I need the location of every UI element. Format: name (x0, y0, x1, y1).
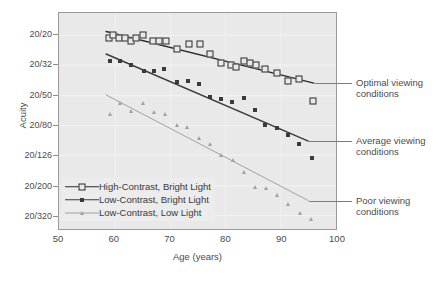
data-point-series-1 (207, 51, 214, 58)
annotation-line-1: Average viewing (356, 135, 446, 146)
data-point-series-1 (252, 62, 259, 69)
data-point-series-2 (175, 80, 179, 84)
data-point-series-1 (196, 41, 203, 48)
annotation-leader-line-3 (309, 201, 352, 202)
x-axis-tick-labels: 5060708090100 (58, 233, 337, 247)
data-point-series-1 (217, 60, 224, 67)
data-point-series-1 (284, 77, 291, 84)
data-point-series-3 (253, 185, 257, 189)
legend-marker-filled-square-icon (65, 193, 99, 206)
data-point-series-3 (185, 125, 189, 129)
data-point-series-2 (118, 59, 122, 63)
annotation-1: Optimal viewingconditions (356, 77, 446, 99)
data-point-series-2 (219, 97, 223, 101)
data-point-series-3 (129, 109, 133, 113)
x-axis-title: Age (years) (58, 251, 337, 262)
data-point-series-3 (163, 112, 167, 116)
annotation-line-2: conditions (356, 146, 446, 157)
legend-item-label: Low-Contrast, Low Light (99, 206, 201, 219)
data-point-series-1 (174, 46, 181, 53)
data-point-series-2 (297, 142, 301, 146)
data-point-series-3 (231, 158, 235, 162)
data-point-series-3 (141, 101, 145, 105)
data-point-series-3 (219, 153, 223, 157)
data-point-series-2 (275, 126, 279, 130)
data-point-series-1 (309, 97, 316, 104)
data-point-series-2 (162, 67, 166, 71)
legend-marker-open-square-icon (65, 180, 99, 193)
data-point-series-2 (186, 79, 190, 83)
data-point-series-3 (108, 112, 112, 116)
data-point-series-2 (230, 100, 234, 104)
annotation-2: Average viewingconditions (356, 135, 446, 157)
data-point-series-3 (298, 211, 302, 215)
data-point-series-3 (264, 186, 268, 190)
annotation-leader-line-1 (315, 83, 352, 84)
data-point-series-1 (261, 66, 268, 73)
x-axis-tick-label: 80 (220, 233, 231, 244)
annotation-line-2: conditions (356, 88, 446, 99)
legend-item-label: High-Contrast, Bright Light (99, 180, 211, 193)
data-point-series-1 (273, 70, 280, 77)
data-point-series-3 (286, 202, 290, 206)
data-point-series-2 (129, 63, 133, 67)
annotation-line-1: Poor viewing (356, 195, 446, 206)
x-axis-tick-label: 100 (329, 233, 345, 244)
y-axis-tick-marks (0, 12, 58, 230)
annotation-line-2: conditions (356, 206, 446, 217)
data-point-series-2 (197, 82, 201, 86)
legend-item-3[interactable]: Low-Contrast, Low Light (65, 206, 211, 219)
annotation-leader-line-2 (309, 141, 352, 142)
legend-marker-triangle-icon (65, 206, 99, 219)
data-point-series-2 (108, 59, 112, 63)
data-point-series-3 (118, 101, 122, 105)
data-point-series-1 (295, 75, 302, 82)
data-point-series-2 (152, 69, 156, 73)
legend: High-Contrast, Bright LightLow-Contrast,… (62, 178, 215, 221)
annotation-line-1: Optimal viewing (356, 77, 446, 88)
x-axis-tick-label: 90 (276, 233, 287, 244)
x-axis-tick-label: 50 (53, 233, 64, 244)
data-point-series-3 (275, 193, 279, 197)
data-point-series-2 (253, 108, 257, 112)
data-point-series-2 (263, 123, 267, 127)
data-point-series-2 (310, 156, 314, 160)
data-point-series-2 (142, 69, 146, 73)
data-point-series-2 (242, 96, 246, 100)
data-point-series-1 (232, 64, 239, 71)
data-point-series-2 (286, 133, 290, 137)
data-point-series-3 (175, 123, 179, 127)
data-point-series-3 (309, 217, 313, 221)
data-point-series-3 (152, 110, 156, 114)
data-point-series-2 (208, 95, 212, 99)
data-point-series-3 (208, 142, 212, 146)
data-point-series-3 (197, 136, 201, 140)
x-axis-tick-label: 70 (164, 233, 175, 244)
data-point-series-3 (242, 170, 246, 174)
data-point-series-1 (139, 32, 146, 39)
legend-item-label: Low-Contrast, Bright Light (99, 193, 209, 206)
x-axis-tick-label: 60 (109, 233, 120, 244)
figure: Acuity 20/2020/3220/5020/8020/12620/2002… (0, 0, 446, 284)
annotation-3: Poor viewingconditions (356, 195, 446, 217)
legend-item-2[interactable]: Low-Contrast, Bright Light (65, 193, 211, 206)
legend-item-1[interactable]: High-Contrast, Bright Light (65, 180, 211, 193)
data-point-series-1 (162, 38, 169, 45)
data-point-series-1 (186, 41, 193, 48)
